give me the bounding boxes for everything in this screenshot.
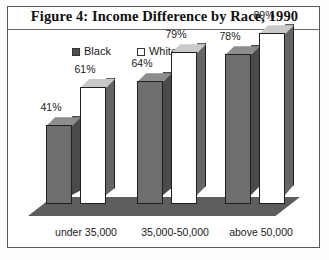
figure-container: Figure 4: Income Difference by Race, 199… bbox=[0, 0, 329, 260]
bar-side-white-0 bbox=[106, 78, 115, 195]
bar-group-above-50000: 78% 89% bbox=[223, 54, 301, 204]
x-axis-labels: under 35,000 35,000-50,000 above 50,000 bbox=[8, 226, 319, 242]
bar-group-under-35000: 41% 61% bbox=[44, 54, 122, 204]
bar-group-35000-50000: 64% 79% bbox=[135, 54, 213, 204]
bar-face-white-2 bbox=[259, 33, 285, 204]
bar-side-white-2 bbox=[285, 24, 294, 195]
bar-value-white-0: 61% bbox=[64, 63, 106, 75]
bar-side-white-1 bbox=[197, 43, 206, 195]
plot-area: 41% 61% 64% bbox=[8, 60, 319, 248]
bar-face-black-1 bbox=[137, 81, 163, 204]
bars-layer: 41% 61% 64% bbox=[8, 54, 319, 204]
bar-face-black-0 bbox=[46, 125, 72, 204]
bar-value-black-0: 41% bbox=[30, 101, 72, 113]
bar-value-black-1: 64% bbox=[121, 57, 163, 69]
bar-value-black-2: 78% bbox=[209, 30, 251, 42]
bar-face-white-1 bbox=[171, 52, 197, 204]
bar-face-black-2 bbox=[225, 54, 251, 204]
x-axis-label-2: above 50,000 bbox=[213, 226, 309, 238]
bar-value-white-2: 89% bbox=[243, 9, 285, 21]
bar-value-white-1: 79% bbox=[155, 28, 197, 40]
bar-face-white-0 bbox=[80, 87, 106, 204]
